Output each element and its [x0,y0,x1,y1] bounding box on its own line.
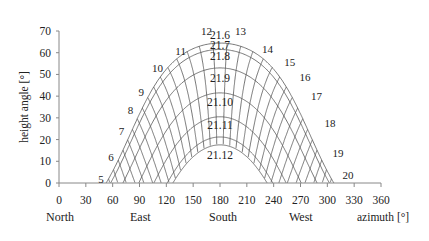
x-tick-label: 120 [158,194,176,206]
hour-label: 10 [152,62,164,74]
hour-line-15 [248,68,272,158]
y-axis-title: height angle [°] [18,71,31,143]
hour-line-17 [271,108,298,182]
x-tick-label: 180 [211,194,229,206]
hour-line-20 [330,179,331,183]
x-tick-label: 240 [265,194,283,206]
y-tick-label: 20 [40,134,52,146]
hour-label: 14 [262,43,274,55]
curve-label: 21.10 [207,96,233,108]
x-tick-label: 300 [319,194,337,206]
x-tick-label: 360 [372,194,390,206]
hour-label: 6 [108,151,114,163]
hour-line-15 [254,77,280,163]
x-axis-title: azimuth [°] [357,211,409,223]
hour-label: 17 [311,90,323,102]
y-tick-label: 40 [40,90,52,102]
x-tick-label: 90 [134,194,146,206]
direction-east: East [130,210,151,224]
hour-label: 8 [128,104,134,116]
direction-south: South [209,210,237,224]
hour-line-5 [109,179,110,183]
hour-label: 20 [342,169,354,181]
hour-line-7 [128,140,144,183]
x-tick-label: 30 [80,194,92,206]
curve-label: 21.11 [207,119,233,131]
x-tick-label: 270 [292,194,310,206]
x-tick-label: 150 [185,194,203,206]
curve-label: 21.12 [207,149,233,161]
sun-path-curves [106,43,334,183]
x-tick-label: 60 [107,194,119,206]
y-tick-label: 10 [40,155,52,167]
y-tick-label: 70 [40,25,52,37]
hour-lines [109,43,332,183]
hour-line-6 [118,160,126,182]
hour-label: 7 [119,125,125,137]
sun-path-21.7 [111,50,330,184]
x-axis-ticks: 0306090120150180210240270300330360 [56,183,390,206]
hour-label: 15 [284,56,296,68]
y-tick-label: 60 [40,47,52,59]
curve-label: 21.9 [210,72,230,84]
hour-label: 18 [325,117,337,129]
hour-label: 12 [201,25,212,37]
curve-label: 21.8 [210,50,230,62]
y-tick-label: 50 [40,68,52,80]
y-tick-label: 30 [40,112,52,124]
x-tick-label: 0 [56,194,62,206]
hour-label: 11 [175,45,186,57]
hour-label: 9 [139,86,145,98]
hour-label: 19 [333,147,345,159]
curve-labels: 21.621.721.821.921.1021.1121.12 [207,29,233,160]
hour-line-8 [142,108,169,182]
x-tick-label: 330 [346,194,364,206]
direction-north: North [46,210,74,224]
x-tick-label: 210 [238,194,256,206]
y-tick-label: 0 [45,177,51,189]
hour-line-19 [314,160,322,182]
direction-west: West [289,210,313,224]
hour-label: 5 [98,173,104,185]
hour-line-18 [296,140,312,183]
sun-path-21.6 [106,43,334,183]
hour-label: 13 [235,25,247,37]
sun-path-chart: 010203040506070 030609012015018021024027… [0,0,429,241]
hour-label: 16 [299,71,311,83]
hour-line-10 [160,77,186,163]
hour-line-10 [168,68,192,158]
y-axis-ticks: 010203040506070 [40,25,60,189]
